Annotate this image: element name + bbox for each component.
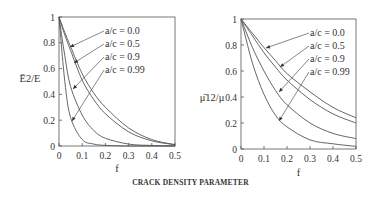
x-tick-label: 0.5 — [350, 154, 362, 164]
figure-caption: CRACK DENSITY PARAMETER — [0, 178, 381, 187]
plot-frame — [241, 19, 356, 149]
arrowhead-icon — [72, 117, 76, 121]
y-tick-label: 0.2 — [43, 116, 55, 126]
legend-label: a/c = 0.9 — [310, 53, 345, 64]
y-tick-label: 0 — [232, 145, 237, 155]
y-tick-label: 0.2 — [225, 119, 237, 129]
plot-mu12-over-mu: 00.10.20.30.40.500.20.40.60.81μ̄12/μfa/c… — [200, 15, 363, 179]
y-tick-label: 1 — [50, 13, 55, 23]
y-tick-label: 0.8 — [225, 41, 237, 51]
x-tick-label: 0.1 — [258, 154, 270, 164]
series-line — [59, 17, 175, 145]
y-axis-title: μ̄12/μ — [200, 92, 225, 103]
x-tick-label: 0.3 — [123, 151, 135, 161]
y-tick-label: 0.8 — [43, 38, 55, 48]
legend-label: a/c = 0.0 — [310, 27, 345, 38]
series-line — [59, 17, 175, 146]
x-axis-title: f — [297, 167, 301, 178]
x-tick-label: 0 — [57, 151, 62, 161]
plot-frame — [59, 17, 175, 146]
legend-label: a/c = 0.0 — [105, 25, 140, 36]
arrowhead-icon — [266, 45, 270, 48]
legend-arrow — [74, 44, 104, 63]
arrowhead-icon — [280, 63, 284, 67]
chart-figure: 00.10.20.30.40.500.20.40.60.81Ē2/Efa/c =… — [0, 0, 381, 201]
x-tick-label: 0.5 — [169, 151, 181, 161]
x-tick-label: 0.1 — [76, 151, 88, 161]
series-line — [59, 17, 175, 146]
y-axis-title: Ē2/E — [20, 73, 41, 84]
x-axis-title: f — [115, 163, 119, 174]
y-tick-label: 1 — [232, 15, 237, 25]
x-tick-label: 0.2 — [99, 151, 111, 161]
y-tick-label: 0.4 — [43, 90, 55, 100]
legend-arrow — [72, 70, 104, 121]
y-tick-label: 0.6 — [225, 67, 237, 77]
legend-label: a/c = 0.99 — [105, 64, 145, 75]
legend-label: a/c = 0.99 — [310, 66, 350, 77]
series-line — [59, 17, 175, 145]
x-tick-label: 0 — [239, 154, 244, 164]
arrowhead-icon — [279, 117, 283, 121]
legend-arrow — [70, 31, 104, 47]
x-tick-label: 0.4 — [146, 151, 158, 161]
x-tick-label: 0.3 — [304, 154, 316, 164]
x-tick-label: 0.2 — [281, 154, 293, 164]
x-tick-label: 0.4 — [327, 154, 339, 164]
legend-arrow — [266, 33, 309, 48]
y-tick-label: 0 — [50, 142, 55, 152]
legend-label: a/c = 0.5 — [310, 40, 345, 51]
legend-label: a/c = 0.5 — [105, 38, 140, 49]
y-tick-label: 0.4 — [225, 93, 237, 103]
legend-label: a/c = 0.9 — [105, 51, 140, 62]
plot-e2-over-e: 00.10.20.30.40.500.20.40.60.81Ē2/Efa/c =… — [20, 13, 182, 175]
y-tick-label: 0.6 — [43, 64, 55, 74]
